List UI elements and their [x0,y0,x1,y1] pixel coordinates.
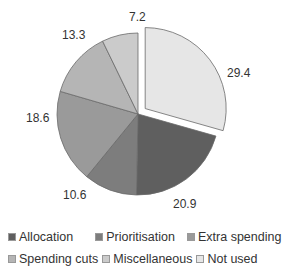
legend-swatch-extra-spending [187,233,195,241]
data-label-miscellaneous: 7.2 [129,10,146,24]
legend-item-not-used: Not used [196,252,257,266]
data-label-allocation: 20.9 [173,197,196,211]
legend-item-extra-spending: Extra spending [187,230,281,244]
legend-item-miscellaneous: Miscellaneous [102,252,192,266]
legend-row-2: Spending cuts Miscellaneous Not used [8,248,290,270]
legend-swatch-allocation [8,233,16,241]
data-label-extra-spending: 18.6 [26,111,49,125]
legend-row-1: Allocation Prioritisation Extra spending [8,226,290,248]
legend-label: Prioritisation [106,230,175,244]
legend-swatch-not-used [196,255,204,263]
legend-item-allocation: Allocation [8,230,73,244]
legend-label: Miscellaneous [113,252,192,266]
data-label-spending-cuts: 13.3 [62,28,85,42]
data-label-not-used: 29.4 [227,66,250,80]
legend-label: Not used [207,252,257,266]
pie-slice-not-used [145,28,226,131]
legend-swatch-miscellaneous [102,255,110,263]
legend-swatch-spending-cuts [8,255,16,263]
legend-label: Extra spending [198,230,281,244]
legend-item-spending-cuts: Spending cuts [8,252,98,266]
legend-item-prioritisation: Prioritisation [95,230,175,244]
legend-swatch-prioritisation [95,233,103,241]
pie-slice-allocation [136,114,215,195]
data-label-prioritisation: 10.6 [63,188,86,202]
chart-legend: Allocation Prioritisation Extra spending… [8,226,290,270]
legend-label: Spending cuts [19,252,98,266]
legend-label: Allocation [19,230,73,244]
